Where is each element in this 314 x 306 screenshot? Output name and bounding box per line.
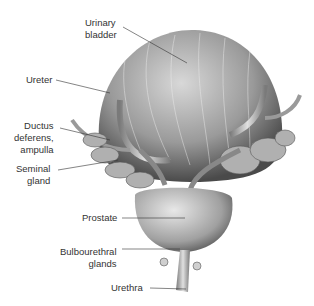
label-urethra: Urethra bbox=[111, 282, 143, 294]
label-ureter: Ureter bbox=[26, 74, 52, 86]
label-seminal-gland: Seminal gland bbox=[16, 163, 50, 187]
label-ductus-deferens: Ductus deferens, ampulla bbox=[14, 120, 54, 156]
urethra-shape bbox=[176, 250, 190, 292]
prostate-shape bbox=[135, 188, 233, 252]
label-bulbourethral-glands: Bulbourethral glands bbox=[60, 246, 117, 270]
label-prostate: Prostate bbox=[82, 212, 117, 224]
label-urinary-bladder: Urinary bladder bbox=[85, 17, 117, 41]
